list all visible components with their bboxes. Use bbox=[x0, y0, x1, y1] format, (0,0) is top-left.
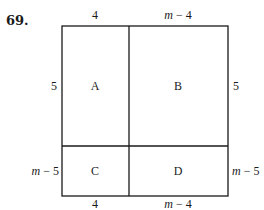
region-label-a: A bbox=[91, 79, 100, 93]
left-bottom-dimension: m − 5 bbox=[32, 164, 59, 178]
right-top-dimension: 5 bbox=[233, 79, 239, 93]
left-top-dimension: 5 bbox=[51, 79, 57, 93]
area-model-diagram: A B C D 4 m − 4 4 m − 4 5 m − 5 5 m − 5 bbox=[0, 0, 264, 210]
region-label-d: D bbox=[174, 164, 183, 178]
top-left-dimension: 4 bbox=[92, 8, 98, 22]
bottom-left-dimension: 4 bbox=[92, 197, 98, 210]
right-bottom-dimension: m − 5 bbox=[232, 164, 259, 178]
region-label-b: B bbox=[174, 79, 182, 93]
top-right-dimension: m − 4 bbox=[164, 8, 191, 22]
outer-square bbox=[62, 26, 228, 196]
bottom-right-dimension: m − 4 bbox=[164, 197, 191, 210]
region-label-c: C bbox=[91, 164, 99, 178]
